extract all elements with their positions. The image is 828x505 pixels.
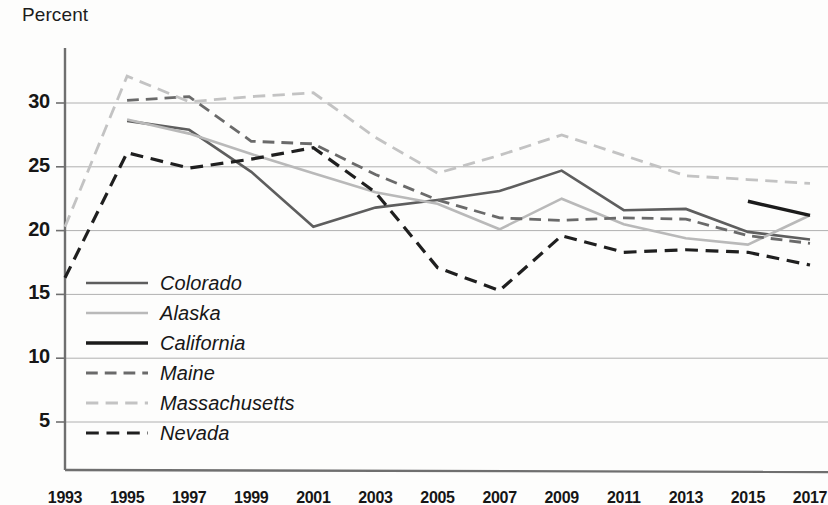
chart-legend: ColoradoAlaskaCaliforniaMaineMassachuset…: [86, 268, 295, 448]
legend-label: Nevada: [160, 422, 230, 445]
series-line-maine: [127, 97, 810, 244]
y-tick-label: 5: [8, 409, 50, 432]
legend-label: Maine: [160, 362, 215, 385]
legend-swatch-icon: [86, 426, 148, 440]
legend-item-maine[interactable]: Maine: [86, 358, 295, 388]
x-tick-label: 1999: [223, 489, 279, 505]
series-line-california: [748, 201, 810, 215]
chart-root: Percent 51015202530 19931995199719992001…: [0, 0, 828, 505]
y-tick-label: 20: [8, 218, 50, 241]
y-tick-label: 25: [8, 154, 50, 177]
legend-item-massachusetts[interactable]: Massachusetts: [86, 388, 295, 418]
x-tick-label: 2013: [658, 489, 714, 505]
legend-swatch-icon: [86, 276, 148, 290]
x-tick-label: 2011: [596, 489, 652, 505]
x-tick-label: 2003: [347, 489, 403, 505]
x-tick-label: 2009: [534, 489, 590, 505]
legend-item-alaska[interactable]: Alaska: [86, 298, 295, 328]
legend-swatch-icon: [86, 366, 148, 380]
x-tick-label: 1993: [37, 489, 93, 505]
legend-label: Alaska: [160, 302, 221, 325]
legend-label: Massachusetts: [160, 392, 295, 415]
legend-item-nevada[interactable]: Nevada: [86, 418, 295, 448]
y-tick-label: 15: [8, 281, 50, 304]
legend-swatch-icon: [86, 396, 148, 410]
legend-label: Colorado: [160, 272, 242, 295]
series-line-colorado: [127, 121, 810, 240]
legend-swatch-icon: [86, 336, 148, 350]
legend-item-colorado[interactable]: Colorado: [86, 268, 295, 298]
x-tick-label: 2017: [782, 489, 828, 505]
legend-item-california[interactable]: California: [86, 328, 295, 358]
x-tick-label: 2007: [472, 489, 528, 505]
y-tick-label: 30: [8, 90, 50, 113]
x-tick-label: 1995: [99, 489, 155, 505]
legend-label: California: [160, 332, 245, 355]
x-tick-label: 2015: [720, 489, 776, 505]
legend-swatch-icon: [86, 306, 148, 320]
x-tick-label: 2005: [410, 489, 466, 505]
x-axis-line: [65, 470, 828, 472]
x-tick-label: 1997: [161, 489, 217, 505]
y-tick-label: 10: [8, 345, 50, 368]
series-lines: [65, 76, 810, 290]
x-tick-label: 2001: [285, 489, 341, 505]
